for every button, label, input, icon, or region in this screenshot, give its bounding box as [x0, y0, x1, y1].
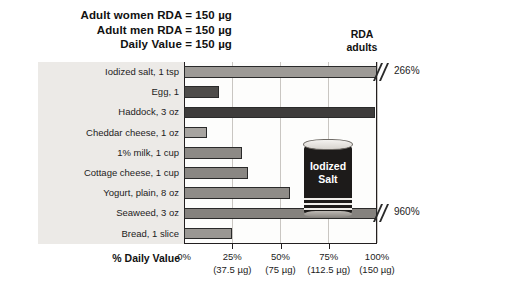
bar[interactable]: [184, 187, 290, 199]
bar-value-label: 960%: [394, 206, 420, 217]
bar[interactable]: [184, 66, 377, 78]
category-label: Cheddar cheese, 1 oz: [38, 123, 184, 143]
salt-can-stripe: [304, 208, 352, 210]
salt-can-label: Iodized Salt: [304, 160, 352, 185]
bar[interactable]: [184, 147, 242, 159]
iodine-daily-value-bar-chart: RDA adults Iodized salt, 1 tsp266%Egg, 1…: [0, 0, 528, 295]
salt-can-label-line2: Salt: [304, 173, 352, 186]
chart-row: Egg, 1: [0, 82, 528, 102]
chart-row: Bread, 1 slice: [0, 224, 528, 244]
chart-row: 1% milk, 1 cup: [0, 143, 528, 163]
bar[interactable]: [184, 107, 375, 119]
axis-tick: [232, 244, 233, 249]
bar[interactable]: [184, 86, 219, 98]
salt-can-base: [304, 211, 352, 217]
axis-tick: [281, 244, 282, 249]
category-label: Yogurt, plain, 8 oz: [38, 183, 184, 203]
rda-marker-line1: RDA: [336, 28, 388, 41]
category-label: Bread, 1 slice: [38, 224, 184, 244]
salt-can-label-line1: Iodized: [304, 160, 352, 173]
iodized-salt-can-icon: Iodized Salt: [303, 139, 353, 217]
bar[interactable]: [184, 167, 248, 179]
rda-adults-marker: RDA adults: [336, 28, 420, 53]
chart-row: Cottage cheese, 1 cup: [0, 163, 528, 183]
category-label: Egg, 1: [38, 82, 184, 102]
rda-marker-line2: adults: [336, 41, 388, 54]
bar-value-label: 266%: [394, 65, 420, 76]
category-label: Seaweed, 3 oz: [38, 203, 184, 223]
category-label: Iodized salt, 1 tsp: [38, 62, 184, 82]
chart-row: Yogurt, plain, 8 oz: [0, 183, 528, 203]
bar[interactable]: [184, 127, 207, 139]
salt-can-body: Iodized Salt: [304, 146, 352, 214]
salt-can-stripe: [304, 198, 352, 200]
bar[interactable]: [184, 228, 232, 240]
salt-can-lid: [303, 139, 353, 150]
axis-tick-label: 100%: [340, 251, 414, 262]
axis-tick: [329, 244, 330, 249]
axis-break-icon: [375, 204, 391, 222]
chart-row: Cheddar cheese, 1 oz: [0, 123, 528, 143]
category-label: Haddock, 3 oz: [38, 102, 184, 122]
axis-tick-sublabel: (150 µg): [340, 264, 414, 275]
salt-can-stripe: [304, 203, 352, 205]
chart-row: Seaweed, 3 oz960%: [0, 203, 528, 223]
category-label: 1% milk, 1 cup: [38, 143, 184, 163]
category-label: Cottage cheese, 1 cup: [38, 163, 184, 183]
axis-break-icon: [375, 63, 391, 81]
chart-row: Iodized salt, 1 tsp266%: [0, 62, 528, 82]
chart-row: Haddock, 3 oz: [0, 102, 528, 122]
